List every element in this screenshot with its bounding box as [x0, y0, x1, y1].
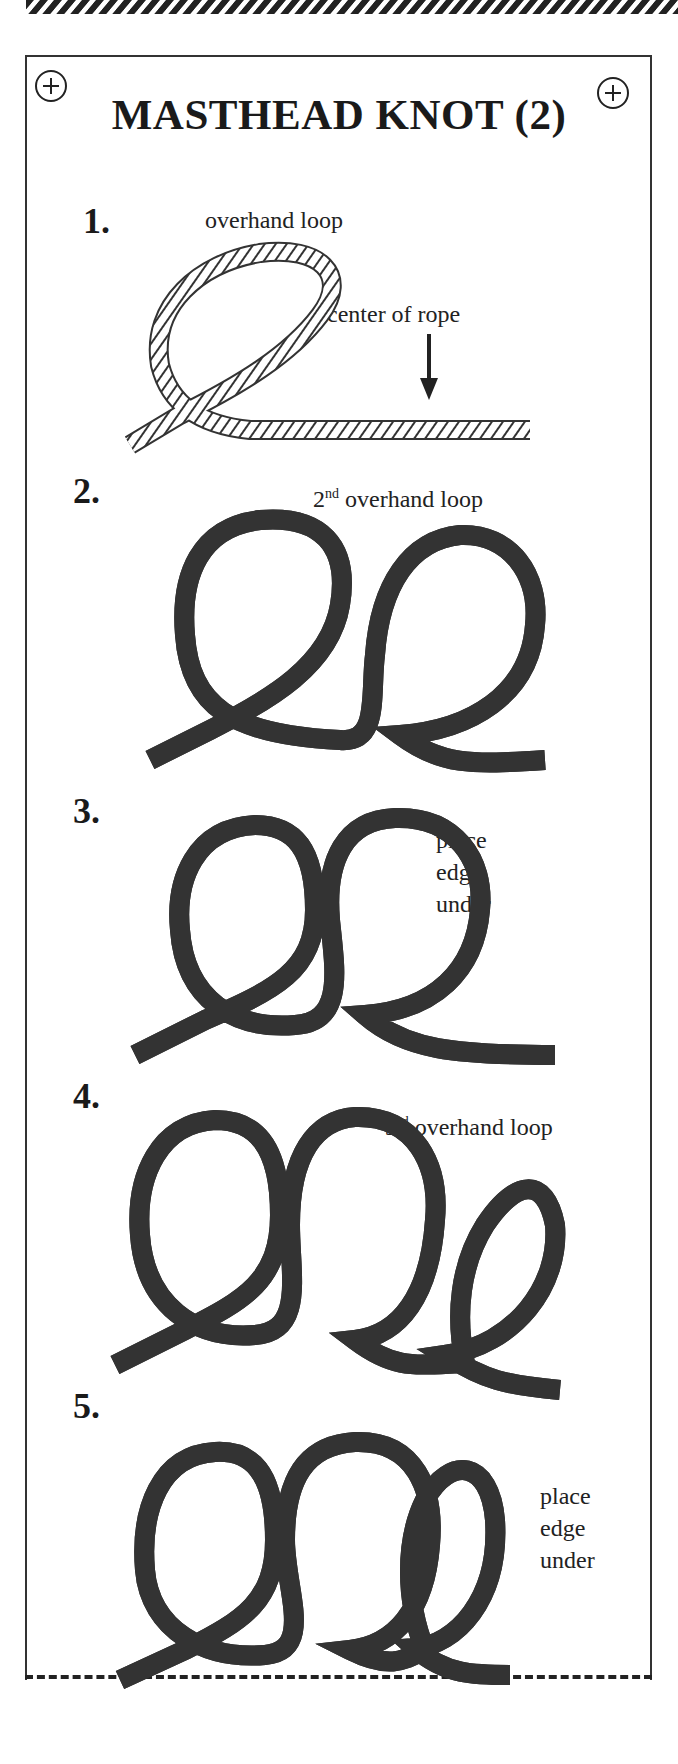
knot-figure-step-4 [105, 1095, 565, 1400]
step-number: 4. [73, 1075, 100, 1117]
step-number: 1. [83, 200, 110, 242]
label-prefix: 2 [313, 486, 325, 512]
page-title: MASTHEAD KNOT (2) [0, 90, 678, 139]
step-number: 3. [73, 790, 100, 832]
rope-border-decoration [26, 0, 678, 16]
label-superscript: nd [325, 486, 339, 501]
step-label: overhand loop [205, 206, 343, 234]
step-label: under [540, 1546, 595, 1574]
knot-figure-step-3 [125, 800, 565, 1070]
knot-figure-step-5 [105, 1420, 525, 1700]
knot-figure-step-2 [140, 515, 560, 780]
label-suffix: overhand loop [339, 486, 483, 512]
step-number: 2. [73, 470, 100, 512]
knot-figure-step-1 [120, 245, 540, 455]
step-label: edge [540, 1514, 585, 1542]
step-number: 5. [73, 1385, 100, 1427]
step-label: place [540, 1482, 591, 1510]
step-label: 2nd overhand loop [313, 480, 483, 513]
